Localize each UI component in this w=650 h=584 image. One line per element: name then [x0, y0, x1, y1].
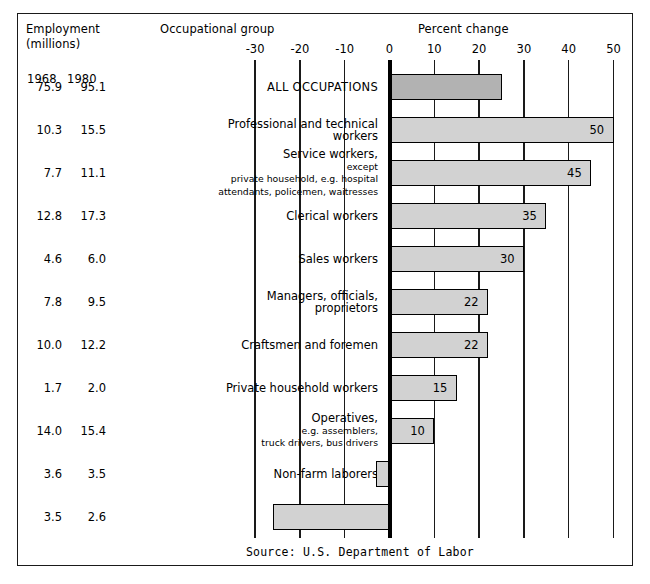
header-occupational-group: Occupational group — [160, 22, 274, 36]
x-tick-label-50: 50 — [606, 42, 621, 56]
header-percent-change: Percent change — [418, 22, 509, 36]
x-tick-label-0: 0 — [386, 42, 393, 56]
header-year-1980: 1980 — [67, 72, 97, 86]
x-tick-label--30: -30 — [246, 42, 265, 56]
header-employment: Employment — [26, 22, 100, 36]
header-year-1968: 1968 — [27, 72, 57, 86]
x-tick-label-20: 20 — [472, 42, 487, 56]
header-millions: (millions) — [26, 37, 80, 51]
chart-frame — [17, 13, 633, 566]
x-tick-label--20: -20 — [290, 42, 309, 56]
source-note: Source: U.S. Department of Labor — [246, 545, 474, 559]
x-tick-label-40: 40 — [561, 42, 576, 56]
x-tick-label-30: 30 — [517, 42, 532, 56]
chart-page: Employment (millions) Occupational group… — [0, 0, 650, 584]
x-tick-label-10: 10 — [427, 42, 442, 56]
x-tick-label--10: -10 — [335, 42, 354, 56]
